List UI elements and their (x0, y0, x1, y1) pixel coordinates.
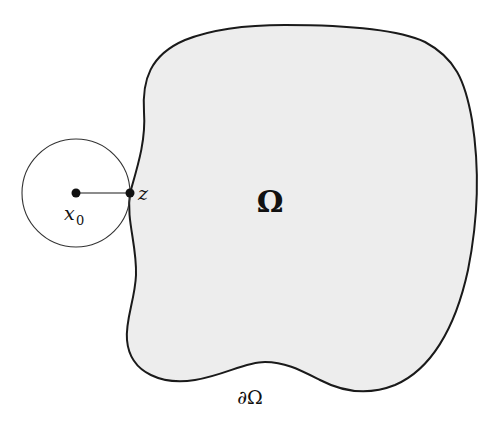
boundary-label: ∂Ω (237, 386, 263, 408)
domain-region (127, 25, 477, 391)
center-point-label: x (64, 202, 75, 224)
domain-label: Ω (257, 184, 284, 219)
center-point-subscript: 0 (76, 213, 84, 228)
contact-point-label: z (137, 182, 149, 204)
domain-diagram: Ω ∂Ω z x 0 (0, 0, 493, 424)
contact-point-z (126, 189, 135, 198)
center-point-x0 (72, 189, 81, 198)
